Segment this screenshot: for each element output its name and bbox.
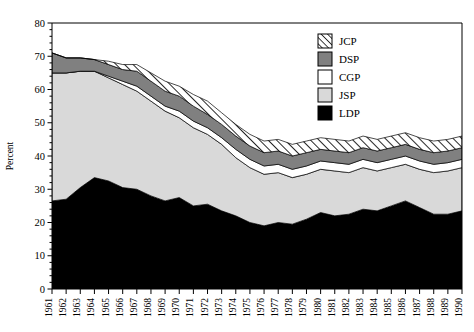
- x-tick-label: 1967: [129, 298, 139, 317]
- x-tick-label: 1973: [214, 298, 224, 317]
- x-tick-label: 1961: [44, 298, 54, 317]
- legend: JCPDSPCGPJSPLDP: [318, 34, 360, 120]
- legend-swatch-jcp: [318, 34, 332, 48]
- legend-label-dsp: DSP: [339, 53, 359, 65]
- x-tick-label: 1968: [143, 298, 153, 317]
- chart-figure: 01020304050607080 1961196219631964196519…: [0, 0, 474, 332]
- x-tick-label: 1986: [397, 298, 407, 317]
- x-tick-label: 1970: [171, 298, 181, 317]
- x-tick-label: 1982: [341, 298, 351, 317]
- y-tick-label: 30: [35, 184, 46, 195]
- y-axis-label: Percent: [5, 141, 15, 170]
- y-tick-label: 10: [35, 250, 46, 261]
- x-tick-label: 1975: [242, 298, 252, 317]
- legend-swatch-jsp: [318, 88, 332, 102]
- x-tick-label: 1971: [185, 298, 195, 317]
- y-axis-ticks: 01020304050607080: [35, 18, 53, 295]
- x-tick-label: 1983: [355, 298, 365, 317]
- x-tick-label: 1981: [327, 298, 337, 317]
- y-tick-label: 80: [35, 18, 46, 29]
- x-tick-label: 1984: [369, 298, 379, 317]
- x-tick-label: 1965: [101, 298, 111, 317]
- legend-label-cgp: CGP: [339, 71, 360, 83]
- x-tick-label: 1974: [228, 298, 238, 317]
- x-tick-label: 1964: [86, 298, 96, 317]
- x-tick-label: 1979: [298, 298, 308, 317]
- x-tick-label: 1966: [115, 298, 125, 317]
- x-tick-label: 1969: [157, 298, 167, 317]
- x-tick-label: 1989: [440, 298, 450, 317]
- x-tick-label: 1987: [412, 298, 422, 317]
- x-tick-label: 1962: [58, 298, 68, 317]
- x-tick-label: 1985: [383, 298, 393, 317]
- y-tick-label: 40: [35, 151, 46, 162]
- x-tick-label: 1977: [270, 298, 280, 317]
- legend-swatch-cgp: [318, 70, 332, 84]
- x-axis-ticks: 1961196219631964196519661967196819691970…: [44, 289, 464, 317]
- legend-swatch-ldp: [318, 106, 332, 120]
- y-tick-label: 50: [35, 117, 46, 128]
- x-tick-label: 1978: [284, 298, 294, 317]
- y-tick-label: 0: [40, 284, 45, 295]
- stacked-area-chart: 01020304050607080 1961196219631964196519…: [0, 0, 474, 332]
- y-tick-label: 20: [35, 217, 46, 228]
- x-tick-label: 1980: [313, 298, 323, 317]
- x-tick-label: 1963: [72, 298, 82, 317]
- legend-label-ldp: LDP: [339, 107, 360, 119]
- y-tick-label: 60: [35, 84, 46, 95]
- x-tick-label: 1972: [200, 298, 210, 317]
- legend-swatch-dsp: [318, 52, 332, 66]
- x-tick-label: 1990: [454, 298, 464, 317]
- legend-label-jcp: JCP: [339, 35, 357, 47]
- x-tick-label: 1976: [256, 298, 266, 317]
- x-tick-label: 1988: [426, 298, 436, 317]
- y-tick-label: 70: [35, 51, 46, 62]
- legend-label-jsp: JSP: [339, 89, 356, 101]
